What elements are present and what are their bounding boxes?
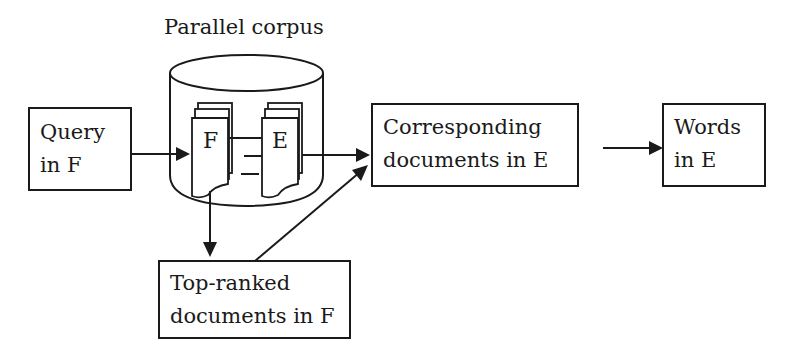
- query-label-line1: Query: [40, 117, 105, 147]
- top-ranked-label-line2: documents in F: [170, 301, 335, 331]
- corresponding-label-line2: documents in E: [383, 145, 548, 175]
- corresponding-label-line1: Corresponding: [383, 112, 542, 142]
- diagram-canvas: [0, 0, 789, 355]
- corpus-title: Parallel corpus: [164, 12, 324, 42]
- query-label-line2: in F: [40, 150, 82, 180]
- words-label-line2: in E: [674, 145, 716, 175]
- words-label-line1: Words: [674, 112, 741, 142]
- doc-e-label: E: [272, 128, 288, 153]
- doc-f-label: F: [203, 128, 218, 153]
- arrow-corresponding-to-words: [603, 141, 663, 155]
- top-ranked-label-line1: Top-ranked: [170, 268, 290, 298]
